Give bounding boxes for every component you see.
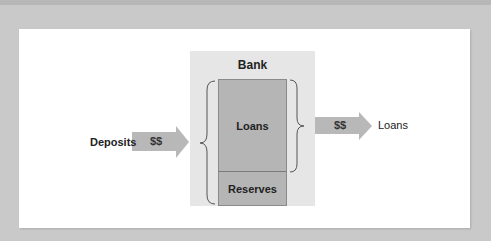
loans-arrow-icon: [0, 0, 491, 241]
outflow-money-label: $$: [334, 119, 346, 131]
loans-destination-label: Loans: [378, 119, 408, 131]
